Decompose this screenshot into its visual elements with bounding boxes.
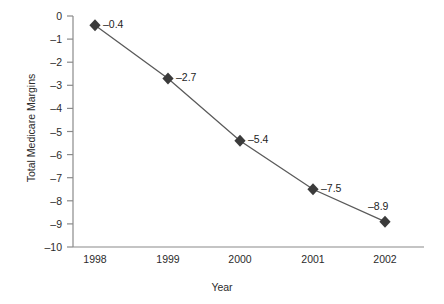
y-tick-label-3: –3: [22, 79, 62, 91]
chart-container: Total Medicare Margins Year 0 –1 –2 –3 –…: [0, 0, 444, 304]
y-tick-label-2: –2: [22, 56, 62, 68]
data-label-2002: –8.9: [368, 200, 388, 212]
y-tick-label-0: 0: [22, 10, 62, 22]
data-point-1998: [89, 19, 100, 31]
y-tick-label-8: –8: [22, 195, 62, 207]
y-tick-label-5: –5: [22, 126, 62, 138]
x-tick-label-2000: 2000: [210, 253, 270, 265]
data-label-1998: –0.4: [103, 18, 123, 30]
y-tick-marks: [67, 16, 73, 247]
y-tick-label-6: –6: [22, 149, 62, 161]
x-tick-label-2001: 2001: [283, 253, 343, 265]
x-tick-label-2002: 2002: [355, 253, 415, 265]
y-tick-label-10: –10: [22, 241, 62, 253]
x-axis-title: Year: [0, 281, 444, 293]
data-point-2001: [307, 183, 318, 195]
data-label-2001: –7.5: [321, 182, 341, 194]
y-tick-label-9: –9: [22, 218, 62, 230]
x-tick-label-1999: 1999: [138, 253, 198, 265]
data-point-2002: [379, 216, 390, 228]
data-label-2000: –5.4: [248, 133, 268, 145]
data-markers: [89, 19, 390, 228]
data-label-1999: –2.7: [176, 71, 196, 83]
y-tick-label-4: –4: [22, 102, 62, 114]
y-tick-label-7: –7: [22, 172, 62, 184]
data-line: [95, 25, 385, 222]
x-tick-label-1998: 1998: [65, 253, 125, 265]
y-tick-label-1: –1: [22, 33, 62, 45]
